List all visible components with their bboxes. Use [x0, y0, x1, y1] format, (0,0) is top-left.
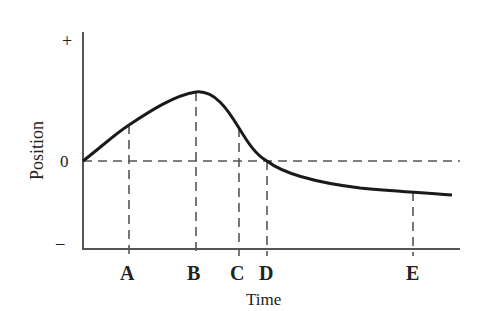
- label-d: D: [259, 262, 273, 284]
- position-time-graph: + 0 – Position A B C D E Time: [0, 0, 481, 311]
- time-markers: [129, 92, 413, 256]
- label-c: C: [230, 262, 244, 284]
- x-axis-label: Time: [246, 290, 281, 309]
- y-tick-minus: –: [55, 233, 65, 252]
- x-marker-labels: A B C D E: [120, 262, 419, 284]
- y-tick-zero: 0: [60, 152, 69, 171]
- y-axis-label: Position: [27, 121, 47, 180]
- label-e: E: [406, 262, 419, 284]
- label-b: B: [187, 262, 200, 284]
- y-tick-plus: +: [62, 31, 72, 51]
- graph-canvas: + 0 – Position A B C D E Time: [0, 0, 481, 311]
- label-a: A: [120, 262, 135, 284]
